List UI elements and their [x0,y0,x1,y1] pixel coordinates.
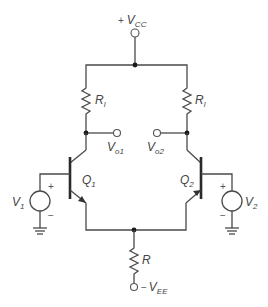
transistor-q2: Q2 [180,133,201,203]
svg-text:Rl: Rl [195,93,206,109]
vcc-terminal: +VCC [118,13,147,65]
svg-text:Q1: Q1 [82,173,96,189]
svg-text:V2: V2 [245,195,258,211]
svg-text:−: − [220,210,226,221]
svg-text:+VCC: +VCC [118,13,147,29]
tail-resistor: R [130,230,151,283]
vcc-junction-dot [133,63,138,68]
top-rail [86,65,187,85]
svg-text:V1: V1 [12,195,24,211]
source-v2: + − V2 [201,174,258,234]
svg-text:R: R [142,253,151,267]
left-load-resistor: Rl [82,85,106,133]
transistor-q1: Q1 [70,133,96,203]
svg-text:−VEE: −VEE [141,280,168,296]
right-load-resistor: Rl [183,85,206,133]
tail-rail [86,203,186,230]
circuit-diagram: +VCC Rl Rl Vo1 Vo2 Q1 [0,0,268,307]
svg-text:Rl: Rl [95,93,106,109]
svg-text:+: + [220,181,226,192]
svg-text:Q2: Q2 [180,173,194,189]
output-vo1: Vo1 [84,130,124,157]
source-v1: + − V1 [12,174,70,234]
output-vo2: Vo2 [147,130,189,157]
svg-text:Vo2: Vo2 [147,140,164,156]
svg-text:Vo1: Vo1 [107,140,124,156]
svg-text:−: − [48,210,54,221]
svg-text:+: + [48,181,54,192]
vee-terminal: −VEE [131,280,169,296]
